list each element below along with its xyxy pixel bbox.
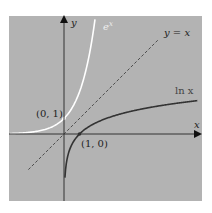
point-1-0-label: (1, 0) [81, 138, 108, 149]
ln-label: ln x [175, 85, 194, 96]
identity-label: y = x [163, 27, 190, 38]
x-axis-label: x [194, 119, 200, 130]
y-axis-label: y [70, 17, 77, 28]
chart: y x ex y = x ln x (0, 1) (1, 0) [0, 0, 212, 213]
point-0-1-label: (0, 1) [36, 108, 63, 119]
